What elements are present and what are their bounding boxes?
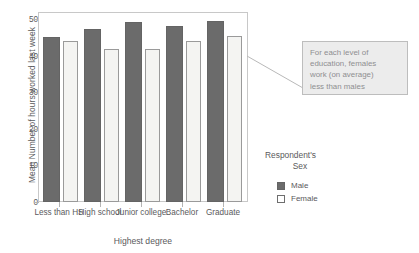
legend-items: Male Female bbox=[265, 179, 357, 205]
legend-label-female: Female bbox=[291, 194, 318, 203]
annotation-text: For each level of education, females wor… bbox=[310, 47, 404, 92]
legend-title-line2: Sex bbox=[265, 161, 357, 172]
bar-female-graduate bbox=[227, 36, 242, 203]
bar-female-less-than-hs bbox=[63, 41, 78, 202]
bar-group-less-than-hs bbox=[43, 13, 80, 202]
bar-group-high-school bbox=[84, 13, 121, 202]
legend-title: Respondent's Sex bbox=[265, 150, 357, 172]
bar-male-bachelor bbox=[166, 26, 183, 202]
x-tick-mark bbox=[182, 202, 183, 207]
bar-group-graduate bbox=[207, 13, 244, 202]
x-axis-title: Highest degree bbox=[38, 236, 248, 246]
x-tick-mark bbox=[223, 202, 224, 207]
legend-swatch-female-icon bbox=[277, 195, 285, 203]
bar-male-high-school bbox=[84, 29, 101, 202]
legend-item-female[interactable]: Female bbox=[277, 192, 357, 205]
y-tick-mark bbox=[34, 202, 39, 203]
annotation-callout: For each level of education, females wor… bbox=[302, 41, 408, 95]
legend-item-male[interactable]: Male bbox=[277, 179, 357, 192]
bar-group-bachelor bbox=[166, 13, 203, 202]
bar-female-bachelor bbox=[186, 41, 201, 202]
callout-leader-line bbox=[247, 55, 303, 89]
bar-female-junior-college bbox=[145, 49, 160, 202]
x-category-graduate: Graduate bbox=[191, 208, 255, 219]
bar-male-less-than-hs bbox=[43, 37, 60, 202]
x-tick-mark bbox=[100, 202, 101, 207]
chart-container: Mean Number of hours worked last week 0 … bbox=[0, 0, 419, 253]
bars-layer bbox=[39, 13, 247, 202]
bar-female-high-school bbox=[104, 49, 119, 202]
legend-title-line1: Respondent's bbox=[265, 150, 316, 160]
bar-male-junior-college bbox=[125, 22, 142, 202]
bar-group-junior-college bbox=[125, 13, 162, 202]
x-tick-mark bbox=[141, 202, 142, 207]
legend-swatch-male-icon bbox=[277, 182, 285, 190]
legend-label-male: Male bbox=[291, 181, 308, 190]
x-tick-mark bbox=[59, 202, 60, 207]
bar-male-graduate bbox=[207, 21, 224, 202]
y-axis-title: Mean Number of hours worked last week bbox=[27, 10, 37, 200]
legend: Respondent's Sex Male Female bbox=[265, 150, 357, 205]
